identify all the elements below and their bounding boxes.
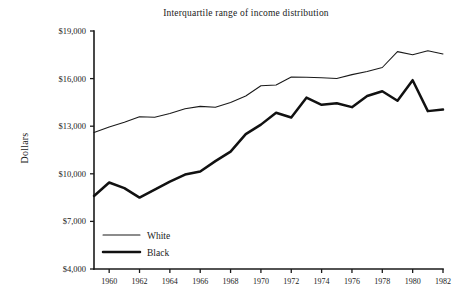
x-tick-label: 1978: [374, 277, 390, 286]
x-tick-label: 1974: [314, 277, 330, 286]
y-tick-label: $16,000: [58, 74, 86, 84]
x-tick-label: 1962: [132, 277, 148, 286]
x-tick-label: 1976: [344, 277, 360, 286]
x-tick-label: 1982: [435, 277, 451, 286]
x-tick-label: 1980: [405, 277, 421, 286]
x-tick-label: 1970: [253, 277, 269, 286]
chart-title: Interquartile range of income distributi…: [163, 8, 329, 18]
y-tick-label: $7,000: [63, 216, 86, 226]
income-distribution-line-chart: Interquartile range of income distributi…: [0, 0, 456, 305]
y-tick-label: $13,000: [58, 121, 86, 131]
y-tick-label: $10,000: [58, 169, 86, 179]
x-tick-label: 1972: [283, 277, 299, 286]
y-tick-label: $4,000: [63, 264, 86, 274]
x-tick-label: 1966: [192, 277, 208, 286]
chart-container: Interquartile range of income distributi…: [0, 0, 456, 305]
legend-label-white: White: [147, 231, 170, 241]
x-tick-label: 1964: [162, 277, 178, 286]
x-tick-label: 1960: [101, 277, 117, 286]
y-axis-label: Dollars: [19, 133, 30, 164]
legend-label-black: Black: [147, 248, 169, 258]
y-tick-label: $19,000: [58, 26, 86, 36]
x-tick-label: 1968: [223, 277, 239, 286]
